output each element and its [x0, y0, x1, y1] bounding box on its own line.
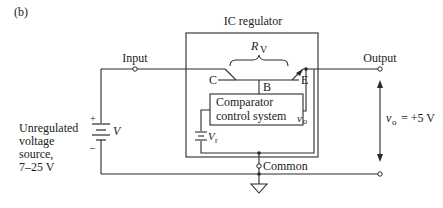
source-label-line-4: 7–25 V — [19, 160, 55, 174]
emitter-label: E — [301, 73, 308, 87]
comparator-line-2: control system — [216, 109, 287, 123]
input-terminal[interactable] — [133, 67, 137, 71]
vo-value: = +5 V — [398, 111, 435, 125]
reference-subscript: r — [215, 136, 218, 145]
battery-symbol: V — [113, 124, 122, 138]
comparator-vo-symbol: v — [297, 112, 302, 124]
vo-arrow-down-icon — [377, 154, 383, 162]
output-common-terminal[interactable] — [378, 172, 382, 176]
ground-icon — [251, 184, 267, 193]
comparator-vo-subscript: o — [303, 117, 307, 126]
base-label: B — [263, 80, 271, 94]
battery-plus: + — [90, 113, 96, 124]
rv-subscript: V — [260, 44, 268, 55]
common-terminal[interactable] — [257, 164, 261, 168]
ic-regulator-circuit: (b) IC regulator Input + – V Unregulated… — [0, 0, 443, 208]
output-terminal[interactable] — [378, 67, 382, 71]
transistor-body — [225, 69, 303, 80]
reference-wire-top — [201, 110, 210, 131]
rv-brace — [230, 55, 288, 66]
source-label-line-3: source, — [19, 147, 53, 161]
input-label: Input — [122, 51, 148, 65]
source-label-line-2: voltage — [19, 134, 54, 148]
vo-arrow-up-icon — [377, 80, 383, 88]
battery-minus: – — [89, 142, 96, 153]
vo-subscript: o — [392, 117, 397, 127]
comparator-line-1: Comparator — [216, 95, 273, 109]
ic-title: IC regulator — [224, 14, 282, 28]
source-label-line-1: Unregulated — [19, 121, 78, 135]
figure-label: (b) — [14, 5, 28, 19]
common-label: Common — [263, 159, 308, 173]
output-label: Output — [363, 51, 397, 65]
rv-symbol: R — [250, 39, 259, 53]
collector-label: C — [209, 73, 217, 87]
